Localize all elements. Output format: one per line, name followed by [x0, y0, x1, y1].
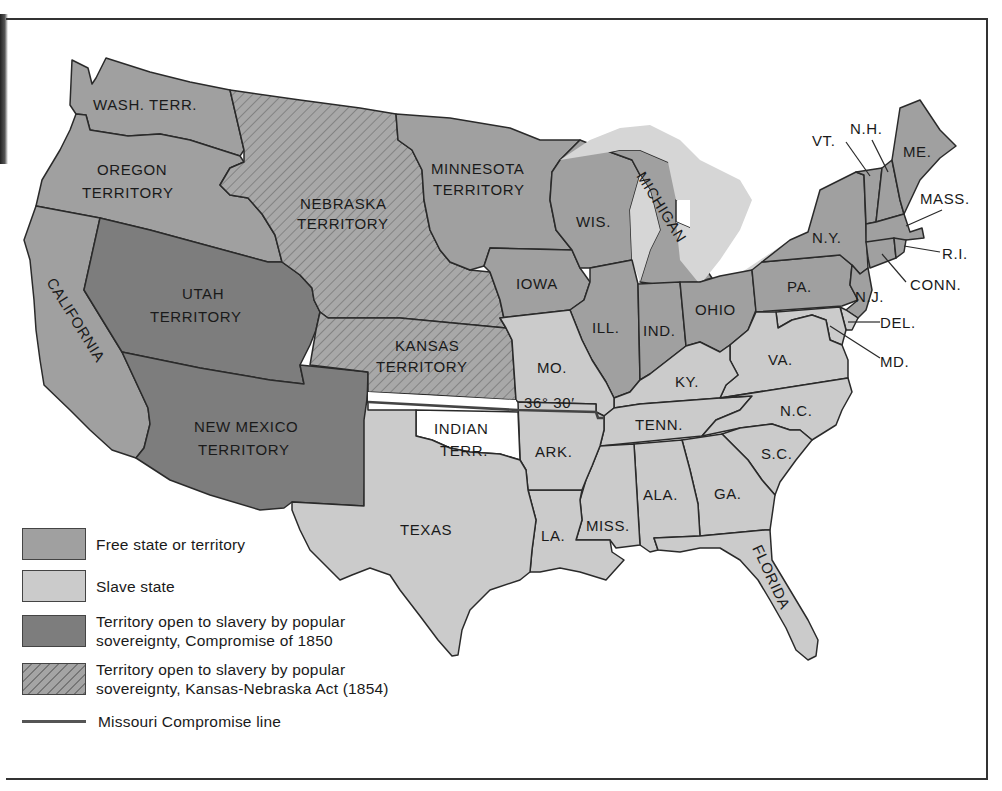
- legend-label-compromise-line: Missouri Compromise line: [98, 712, 281, 731]
- label-maryland: MD.: [880, 353, 909, 370]
- label-nebraska-2: TERRITORY: [297, 215, 389, 232]
- label-minnesota-1: MINNESOTA: [431, 160, 524, 177]
- label-new-jersey: N.J.: [855, 288, 884, 305]
- legend-item-free: Free state or territory: [22, 528, 422, 560]
- legend-item-1850: Territory open to slavery by popular sov…: [22, 612, 422, 650]
- region-connecticut: [866, 238, 896, 268]
- legend-label-1850: Territory open to slavery by popular sov…: [96, 612, 345, 650]
- swatch-compromise-1850: [22, 615, 86, 647]
- label-north-carolina: N.C.: [780, 402, 812, 419]
- label-new-mexico-1: NEW MEXICO: [194, 418, 298, 435]
- region-rhode-island: [894, 238, 906, 258]
- swatch-free: [22, 528, 86, 560]
- label-wash-terr: WASH. TERR.: [93, 96, 197, 113]
- label-utah-2: TERRITORY: [150, 308, 242, 325]
- label-kansas-1: KANSAS: [395, 337, 459, 354]
- legend-label-1854: Territory open to slavery by popular sov…: [96, 660, 389, 698]
- label-indian-terr-1: INDIAN: [434, 420, 488, 437]
- legend-label-free: Free state or territory: [96, 535, 245, 554]
- label-indian-terr-2: TERR.: [440, 442, 488, 459]
- legend-item-1854: Territory open to slavery by popular sov…: [22, 660, 422, 698]
- label-vermont: VT.: [812, 132, 835, 149]
- label-south-carolina: S.C.: [761, 445, 793, 462]
- label-compromise-line: 36° 30′: [524, 394, 575, 411]
- label-indiana: IND.: [643, 322, 675, 339]
- label-maine: ME.: [903, 143, 931, 160]
- label-tennessee: TENN.: [635, 416, 683, 433]
- label-new-mexico-2: TERRITORY: [198, 441, 290, 458]
- label-oregon-1: OREGON: [97, 161, 167, 178]
- map-legend: Free state or territory Slave state Terr…: [22, 528, 422, 741]
- label-missouri: MO.: [537, 359, 567, 376]
- label-virginia: VA.: [768, 351, 793, 368]
- legend-label-1854-line2: sovereignty, Kansas-Nebraska Act (1854): [96, 679, 389, 698]
- label-nebraska-1: NEBRASKA: [300, 195, 387, 212]
- label-utah-1: UTAH: [182, 285, 224, 302]
- swatch-compromise-line: [22, 720, 86, 723]
- label-minnesota-2: TERRITORY: [433, 181, 525, 198]
- label-alabama: ALA.: [643, 486, 678, 503]
- legend-item-compromise-line: Missouri Compromise line: [22, 712, 422, 731]
- label-new-hampshire: N.H.: [850, 120, 882, 137]
- label-georgia: GA.: [714, 485, 742, 502]
- label-wisconsin: WIS.: [576, 213, 611, 230]
- label-iowa: IOWA: [516, 275, 558, 292]
- label-massachusetts: MASS.: [920, 190, 970, 207]
- label-new-york: N.Y.: [812, 229, 842, 246]
- label-ohio: OHIO: [695, 301, 736, 318]
- legend-label-1850-line2: sovereignty, Compromise of 1850: [96, 631, 345, 650]
- label-kansas-2: TERRITORY: [376, 358, 468, 375]
- label-pennsylvania: PA.: [787, 278, 812, 295]
- label-mississippi: MISS.: [586, 517, 630, 534]
- label-delaware: DEL.: [880, 314, 916, 331]
- label-arkansas: ARK.: [535, 443, 572, 460]
- label-oregon-2: TERRITORY: [82, 184, 174, 201]
- region-florida: [654, 530, 818, 660]
- swatch-slave: [22, 570, 86, 602]
- label-louisiana: LA.: [541, 527, 565, 544]
- legend-label-1850-line1: Territory open to slavery by popular: [96, 612, 345, 631]
- swatch-kansas-nebraska: [22, 663, 86, 695]
- legend-label-slave: Slave state: [96, 577, 175, 596]
- legend-item-slave: Slave state: [22, 570, 422, 602]
- legend-label-1854-line1: Territory open to slavery by popular: [96, 660, 389, 679]
- label-connecticut: CONN.: [910, 276, 961, 293]
- label-kentucky: KY.: [675, 373, 699, 390]
- label-illinois: ILL.: [592, 319, 619, 336]
- label-rhode-island: R.I.: [942, 245, 968, 262]
